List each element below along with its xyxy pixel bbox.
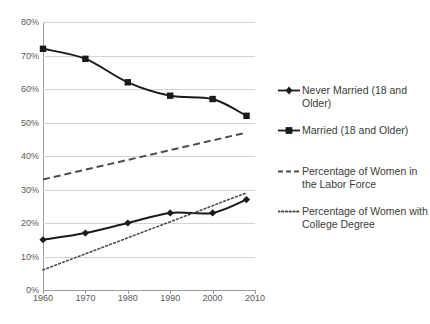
- data-point-marker: [39, 236, 46, 243]
- legend-item[interactable]: Percentage of Women with College Degree: [278, 205, 428, 231]
- x-tick-mark: [170, 290, 171, 294]
- line-square-marker-icon: [278, 124, 300, 137]
- data-point-marker: [209, 96, 215, 102]
- series-1: [39, 196, 250, 243]
- x-tick-label: 1960: [33, 293, 53, 303]
- chart-screenshot: 0%10%20%30%40%50%60%70%80% 1960197019801…: [0, 0, 430, 324]
- data-point-marker: [209, 209, 216, 216]
- series-2: [40, 46, 250, 119]
- dotted-line-icon: [278, 205, 300, 218]
- data-point-marker: [82, 56, 88, 62]
- series-3: [43, 133, 247, 180]
- legend-item-label: Percentage of Women in the Labor Force: [302, 165, 428, 191]
- series-line: [43, 193, 247, 270]
- y-tick-label: 20%: [3, 218, 39, 228]
- y-tick-label: 10%: [3, 252, 39, 262]
- x-tick-label: 1990: [160, 293, 180, 303]
- y-axis-tick-labels: 0%10%20%30%40%50%60%70%80%: [0, 22, 39, 290]
- series-line: [43, 133, 247, 180]
- y-tick-label: 40%: [3, 151, 39, 161]
- plot-area: [43, 22, 255, 290]
- legend-item-label: Never Married (18 and Older): [302, 84, 428, 110]
- legend-item-label: Percentage of Women with College Degree: [302, 205, 428, 231]
- series-container: [43, 22, 255, 290]
- x-tick-label: 2000: [203, 293, 223, 303]
- x-tick-mark: [213, 290, 214, 294]
- legend-item[interactable]: Percentage of Women in the Labor Force: [278, 165, 428, 191]
- x-tick-label: 1980: [118, 293, 138, 303]
- data-point-marker: [167, 93, 173, 99]
- series-line: [43, 200, 247, 240]
- legend-item[interactable]: Never Married (18 and Older): [278, 84, 428, 110]
- data-point-marker: [243, 113, 249, 119]
- x-tick-mark: [43, 290, 44, 294]
- dashed-line-icon: [278, 165, 300, 178]
- data-point-marker: [243, 196, 250, 203]
- y-tick-label: 50%: [3, 118, 39, 128]
- data-point-marker: [125, 79, 131, 85]
- data-point-marker: [40, 46, 46, 52]
- x-tick-mark: [85, 290, 86, 294]
- data-point-marker: [124, 219, 131, 226]
- y-tick-label: 30%: [3, 185, 39, 195]
- y-tick-label: 60%: [3, 84, 39, 94]
- y-tick-label: 80%: [3, 17, 39, 27]
- chart-legend: Never Married (18 and Older)Married (18 …: [278, 84, 428, 245]
- series-4: [43, 193, 247, 270]
- line-diamond-marker-icon: [278, 84, 300, 97]
- x-tick-mark: [255, 290, 256, 294]
- legend-item[interactable]: Married (18 and Older): [278, 124, 428, 137]
- gridline: [43, 290, 255, 291]
- x-axis-tick-labels: 196019701980199020002010: [43, 293, 255, 309]
- x-tick-label: 2010: [245, 293, 265, 303]
- data-point-marker: [82, 229, 89, 236]
- x-tick-label: 1970: [75, 293, 95, 303]
- legend-item-label: Married (18 and Older): [302, 124, 408, 137]
- y-tick-label: 70%: [3, 51, 39, 61]
- series-line: [43, 49, 247, 116]
- x-tick-mark: [128, 290, 129, 294]
- data-point-marker: [167, 209, 174, 216]
